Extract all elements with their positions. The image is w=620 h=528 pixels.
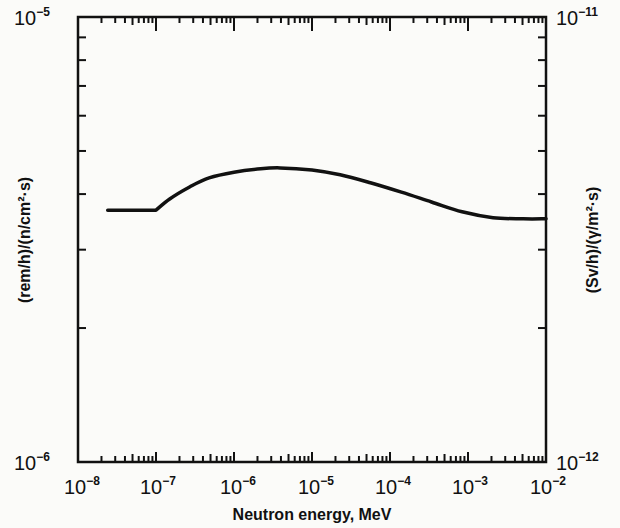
x-tick-label: 10−5 (298, 474, 334, 498)
plot-frame (78, 17, 546, 462)
y-right-bottom-label: 10−12 (556, 450, 599, 474)
x-tick-labels: 10−8 10−7 10−6 10−5 10−4 10−3 10−2 (64, 474, 566, 498)
x-axis-title: Neutron energy, MeV (233, 506, 392, 523)
axis-ticks (78, 17, 546, 462)
x-tick-label: 10−4 (375, 474, 411, 498)
x-tick-label: 10−6 (220, 474, 256, 498)
dose-conversion-chart: 10−5 10−6 10−11 10−12 10−8 10−7 10−6 10−… (0, 0, 620, 528)
x-tick-label: 10−7 (140, 474, 176, 498)
y-right-top-label: 10−11 (556, 5, 598, 29)
y-left-top-label: 10−5 (14, 5, 50, 29)
y-left-bottom-label: 10−6 (14, 450, 50, 474)
data-curve (108, 168, 546, 219)
x-tick-label: 10−2 (530, 474, 566, 498)
x-tick-label: 10−3 (452, 474, 488, 498)
y-axis-title-right: (Sv/h)/(γ/m²·s) (584, 187, 601, 294)
y-axis-title-left: (rem/h)/(n/cm²·s) (16, 177, 33, 303)
x-tick-label: 10−8 (64, 474, 100, 498)
